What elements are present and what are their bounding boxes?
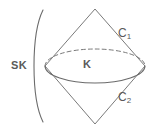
large-left-parenthesis-icon [34, 10, 43, 122]
label-sk: SK [11, 60, 27, 71]
label-k: K [83, 59, 91, 70]
geometry-diagram: SK K C1 C2 [0, 0, 153, 134]
ellipse-back-arc-dashed [45, 49, 145, 66]
label-c1-base: C [118, 26, 127, 40]
label-c2-subscript: 2 [127, 96, 131, 105]
label-c1: C1 [118, 27, 131, 39]
label-c2-base: C [118, 90, 127, 104]
ellipse-front-arc-solid [45, 66, 145, 83]
label-c2: C2 [118, 91, 131, 103]
label-c1-subscript: 1 [127, 32, 131, 41]
